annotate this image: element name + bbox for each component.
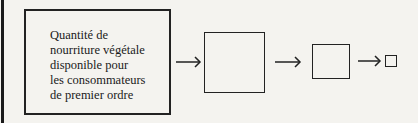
arrow-right-icon xyxy=(275,56,302,68)
box-third-level xyxy=(312,44,350,79)
box-label: Quantité de nourriture végétale disponib… xyxy=(50,28,145,103)
box-plant-food-quantity: Quantité de nourriture végétale disponib… xyxy=(24,9,171,115)
label-line: Quantité de xyxy=(50,28,145,43)
arrow-right-icon xyxy=(358,55,382,67)
left-border-line xyxy=(1,0,4,123)
label-line: nourriture végétale xyxy=(50,43,145,58)
arrow-right-icon xyxy=(176,56,202,68)
label-line: de premier ordre xyxy=(50,88,145,103)
label-line: disponible pour xyxy=(50,58,145,73)
label-line: les consommateurs xyxy=(50,73,145,88)
box-second-level xyxy=(204,32,265,93)
box-fourth-level xyxy=(385,55,397,67)
